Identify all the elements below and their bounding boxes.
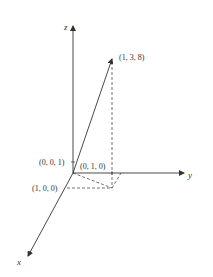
x-axis-label: x xyxy=(16,257,21,267)
3d-vector-diagram: z y x (1, 3, 8) (0, 0, 1) (0, 1, 0) (1, … xyxy=(0,0,213,277)
unit-label-x: (1, 0, 0) xyxy=(32,184,58,193)
diagonal-to-base xyxy=(73,173,112,188)
y-parallel xyxy=(112,173,121,188)
y-axis-label: y xyxy=(187,170,192,180)
vector-label: (1, 3, 8) xyxy=(119,53,145,62)
unit-label-z: (0, 0, 1) xyxy=(39,158,65,167)
z-axis-label: z xyxy=(63,22,68,32)
vector-arrow xyxy=(73,59,112,173)
unit-label-y: (0, 1, 0) xyxy=(80,162,106,171)
